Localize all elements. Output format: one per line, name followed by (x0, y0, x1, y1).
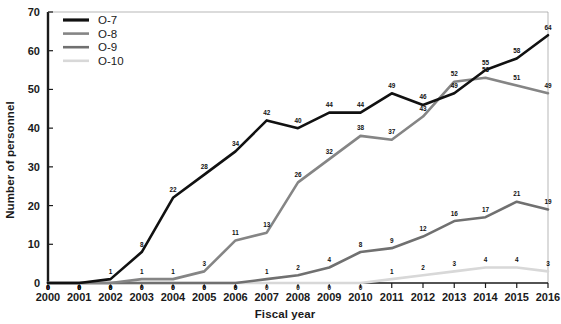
point-label: 12 (419, 225, 427, 232)
y-tick-label: 10 (28, 238, 40, 250)
point-label: 4 (484, 256, 488, 263)
point-label: 26 (294, 171, 302, 178)
point-label: 43 (419, 105, 427, 112)
point-label: 0 (265, 284, 269, 291)
x-tick-label: 2002 (98, 291, 122, 303)
point-label: 3 (546, 260, 550, 267)
x-axis-title: Fiscal year (255, 308, 316, 320)
x-tick-label: 2013 (442, 291, 466, 303)
point-label: 0 (327, 284, 331, 291)
point-label: 13 (263, 221, 271, 228)
point-label: 1 (265, 268, 269, 275)
point-label: 0 (46, 284, 50, 291)
y-tick-label: 60 (28, 45, 40, 57)
x-tick-label: 2012 (411, 291, 435, 303)
point-label: 1 (109, 268, 113, 275)
legend-label-o-8: O-8 (98, 28, 117, 40)
point-label: 3 (452, 260, 456, 267)
point-label: 17 (482, 206, 490, 213)
x-tick-label: 2008 (286, 291, 310, 303)
y-axis-title: Number of personnel (4, 101, 16, 219)
point-label: 34 (232, 140, 240, 147)
point-label: 49 (544, 82, 552, 89)
point-label: 16 (451, 210, 459, 217)
x-tick-label: 2001 (67, 291, 91, 303)
point-label: 55 (482, 59, 490, 66)
point-label: 22 (169, 186, 177, 193)
point-label: 21 (513, 190, 521, 197)
point-label: 38 (357, 124, 365, 131)
legend-label-o-10: O-10 (98, 55, 124, 67)
x-tick-label: 2009 (317, 291, 341, 303)
x-tick-label: 2003 (130, 291, 154, 303)
point-label: 4 (327, 256, 331, 263)
point-label: 0 (109, 284, 113, 291)
point-label: 46 (419, 93, 427, 100)
point-label: 37 (388, 128, 396, 135)
chart-background (0, 0, 561, 324)
point-label: 11 (232, 229, 239, 236)
point-label: 42 (263, 109, 271, 116)
y-tick-label: 20 (28, 200, 40, 212)
point-label: 0 (171, 284, 175, 291)
point-label: 1 (140, 268, 144, 275)
y-tick-label: 0 (34, 277, 40, 289)
y-tick-label: 70 (28, 6, 40, 18)
point-label: 44 (326, 101, 334, 108)
point-label: 0 (234, 284, 238, 291)
point-label: 58 (513, 47, 521, 54)
point-label: 4 (515, 256, 519, 263)
y-tick-label: 40 (28, 122, 40, 134)
x-tick-label: 2016 (536, 291, 560, 303)
x-tick-label: 2006 (223, 291, 247, 303)
point-label: 1 (171, 268, 175, 275)
point-label: 49 (451, 82, 459, 89)
point-label: 9 (390, 237, 394, 244)
point-label: 19 (544, 198, 552, 205)
point-label: 0 (359, 284, 363, 291)
x-tick-label: 2007 (255, 291, 279, 303)
point-label: 8 (359, 241, 363, 248)
y-tick-label: 50 (28, 83, 40, 95)
x-tick-label: 2004 (161, 291, 186, 303)
x-tick-label: 2011 (380, 291, 404, 303)
point-label: 51 (513, 74, 521, 81)
line-chart: 010203040506070 200020012002200320042005… (0, 0, 561, 324)
point-label: 49 (388, 82, 396, 89)
x-tick-label: 2010 (348, 291, 372, 303)
point-label: 0 (202, 284, 206, 291)
x-tick-label: 2000 (36, 291, 60, 303)
point-label: 53 (482, 66, 490, 73)
point-label: 0 (296, 284, 300, 291)
x-tick-label: 2005 (192, 291, 216, 303)
point-label: 2 (296, 264, 300, 271)
point-label: 2 (421, 264, 425, 271)
point-label: 64 (544, 24, 552, 31)
y-tick-label: 30 (28, 161, 40, 173)
point-label: 1 (390, 268, 394, 275)
x-tick-label: 2014 (473, 291, 498, 303)
chart-container: 010203040506070 200020012002200320042005… (0, 0, 561, 324)
point-label: 40 (294, 117, 302, 124)
point-label: 28 (201, 163, 209, 170)
point-label: 44 (357, 101, 365, 108)
legend-label-o-7: O-7 (98, 14, 117, 26)
point-label: 52 (451, 70, 459, 77)
point-label: 0 (77, 284, 81, 291)
point-label: 32 (326, 148, 334, 155)
point-label: 3 (202, 260, 206, 267)
point-label: 8 (140, 241, 144, 248)
legend-label-o-9: O-9 (98, 41, 117, 53)
x-tick-label: 2015 (505, 291, 529, 303)
point-label: 0 (140, 284, 144, 291)
